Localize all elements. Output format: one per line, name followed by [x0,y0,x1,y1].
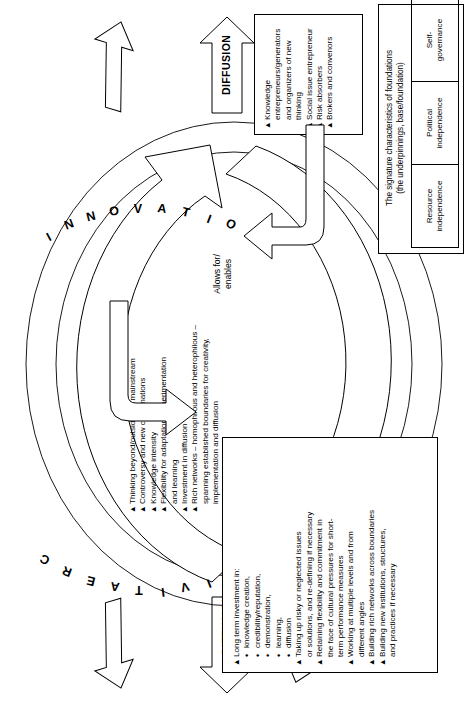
dot-bullet-icon: • [242,648,252,657]
roles-list-item: ▲ Knowledge entrepreneurs/generators and… [263,20,305,129]
signature-characteristics-panel: The signature characteristics of foundat… [378,4,464,254]
signature-characteristics-heading: The signature characteristics of foundat… [384,3,405,253]
triangle-bullet-icon: ▲ [378,657,388,666]
roles-list-item-text: Brokers and convenors [325,20,335,120]
creativity-practices-item-text: Building new institutions, structures, a… [378,445,399,657]
dot-bullet-icon: • [253,648,263,657]
allows-enables-label: Allows for/ enables [212,219,234,329]
creativity-practices-item: ▲ Building rich networks across boundari… [367,445,377,666]
creativity-practices-item: ▲ Retaining flexibility and commitment i… [315,445,346,666]
dot-bullet-icon: • [263,648,273,657]
creativity-practices-subitem: • diffusion [284,445,294,657]
roles-list: ▲ Knowledge entrepreneurs/generators and… [255,15,336,134]
creativity-practices-subitem-text: demonstration, [263,594,273,648]
creativity-practices-item: ▲ Long term investment in: • knowledge c… [232,445,294,666]
creativity-practices-item: ▲ Building new institutions, structures,… [378,445,399,666]
triangle-bullet-icon: ▲ [346,657,356,666]
diagram-canvas: DIFFUSION DIFFUSION I N N O V A T I O N [0,0,467,709]
triangle-bullet-icon: ▲ [128,504,138,513]
roles-list-item-text: Risk absorbers [315,20,325,120]
creativity-practices-item-text: Building rich networks across boundaries [367,445,377,657]
table-row: Resource independence Political independ… [412,0,459,248]
creativity-practices-subitem: • knowledge creation, [242,445,252,657]
creativity-practices-box: ▲ Long term investment in: • knowledge c… [222,437,438,673]
creativity-practices-subitem: • credibility/reputation, [253,445,263,657]
table-cell-political-independence: Political independence [412,82,459,165]
dot-bullet-icon: • [284,648,294,657]
creativity-practices-item: ▲ Working at multiple levels and from di… [346,445,367,666]
triangle-bullet-icon: ▲ [315,657,325,666]
creativity-practices-item-text: Working at multiple levels and from diff… [346,445,367,657]
elbow-arrow-to-roles [238,123,360,275]
triangle-bullet-icon: ▲ [138,504,148,513]
creativity-practices-subitem-text: credibility/reputation, [253,574,263,648]
creativity-practices-subitem: • learning, [274,445,284,657]
triangle-bullet-icon: ▲ [180,504,190,513]
creativity-practices-item-text: Long term investment in: [232,445,242,657]
roles-list-item: ▲ Social issue entrepreneur [305,20,315,129]
roles-list-item-text: Social issue entrepreneur [305,20,315,120]
dot-bullet-icon: • [274,648,284,657]
roles-list-item: ▲ Brokers and convenors [325,20,335,129]
triangle-bullet-icon: ▲ [149,504,159,513]
triangle-bullet-icon: ▲ [294,657,304,666]
roles-list-item-text: Knowledge entrepreneurs/generators and o… [263,20,305,120]
triangle-bullet-icon: ▲ [367,657,377,666]
table-cell-self-governance: Self- governance [412,0,459,82]
triangle-bullet-icon: ▲ [190,504,200,513]
creativity-practices-item-text: Taking up risky or neglected issues or s… [294,445,315,657]
triangle-bullet-icon: ▲ [159,504,169,513]
creativity-practices-subitem-text: diffusion [284,618,294,648]
triangle-bullet-icon: ▲ [232,657,242,666]
table-cell-resource-independence: Resource independence [412,165,459,248]
creativity-practices-list: ▲ Long term investment in: • knowledge c… [223,438,399,672]
creativity-practices-subitem: • demonstration, [263,445,273,657]
creativity-practices-item: ▲ Taking up risky or neglected issues or… [294,445,315,666]
creativity-practices-item-text: Retaining flexibility and commitment in … [315,445,346,657]
roles-box: ▲ Knowledge entrepreneurs/generators and… [254,14,363,135]
roles-list-item: ▲ Risk absorbers [315,20,325,129]
creativity-practices-subitem-text: learning, [274,617,284,648]
creativity-practices-subitem-text: knowledge creation, [242,576,252,648]
signature-characteristics-table: Resource independence Political independ… [411,0,459,248]
